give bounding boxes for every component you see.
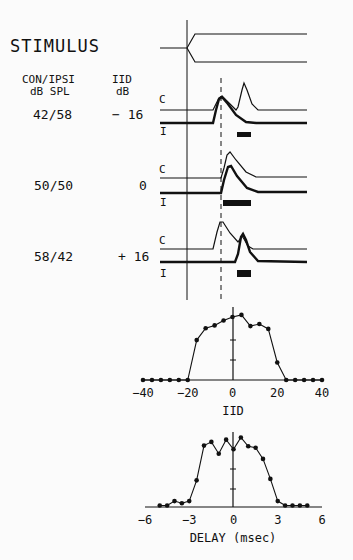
- tick-label: 0: [230, 513, 237, 527]
- data-point: [261, 457, 266, 462]
- data-point: [246, 444, 251, 449]
- data-point: [202, 443, 207, 448]
- delay-axis-label: DELAY (msec): [190, 531, 277, 545]
- tick-label: 3: [274, 513, 281, 527]
- data-point: [224, 437, 229, 442]
- data-point: [268, 477, 273, 482]
- data-point: [216, 451, 221, 456]
- figure: STIMULUS CON/IPSI dB SPL IID dB 42/58 − …: [0, 0, 353, 560]
- data-point: [180, 501, 185, 506]
- tick-label: −3: [182, 513, 196, 527]
- data-point: [231, 447, 236, 452]
- tick-label: −6: [138, 513, 152, 527]
- data-point: [209, 440, 214, 445]
- data-point: [275, 499, 280, 504]
- data-point: [239, 435, 244, 440]
- delay-axis-ticks: −6−3036: [138, 513, 326, 527]
- data-point: [172, 499, 177, 504]
- data-point: [157, 503, 162, 508]
- tick-label: 6: [318, 513, 325, 527]
- delay-tuning-chart: −6−3036 DELAY (msec): [0, 0, 353, 560]
- data-point: [165, 503, 170, 508]
- data-point: [290, 503, 295, 508]
- data-point: [253, 446, 258, 451]
- data-point: [298, 503, 303, 508]
- data-point: [305, 503, 310, 508]
- data-point: [187, 499, 192, 504]
- data-point: [283, 503, 288, 508]
- data-point: [194, 478, 199, 483]
